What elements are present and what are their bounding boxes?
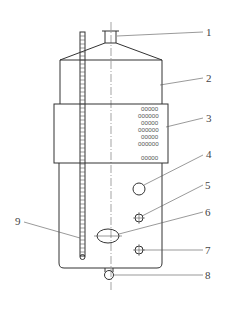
vessel-diagram: 00000 000000 00000 000000 00000 000000 0… — [0, 0, 227, 310]
sight-glass-6 — [94, 229, 122, 243]
svg-text:00000: 00000 — [141, 154, 159, 161]
callout-2: 2 — [206, 72, 212, 84]
perforations: 00000 000000 00000 000000 00000 000000 0… — [138, 105, 159, 161]
callout-1: 1 — [206, 26, 212, 38]
svg-text:000000: 000000 — [138, 112, 159, 119]
callout-8: 8 — [205, 269, 211, 281]
bottom-outlet — [105, 268, 114, 280]
level-gauge — [80, 32, 85, 260]
svg-text:00000: 00000 — [141, 105, 159, 112]
port-4 — [133, 183, 145, 195]
callout-6: 6 — [205, 206, 211, 218]
svg-text:00000: 00000 — [141, 133, 159, 140]
callout-3: 3 — [206, 112, 212, 124]
svg-text:00000: 00000 — [141, 119, 159, 126]
svg-text:000000: 000000 — [138, 140, 159, 147]
callout-9: 9 — [15, 215, 21, 227]
lower-shell — [59, 163, 162, 268]
svg-text:000000: 000000 — [138, 126, 159, 133]
callout-4: 4 — [206, 148, 212, 160]
callout-7: 7 — [205, 244, 211, 256]
callout-5: 5 — [205, 179, 211, 191]
leader-lines — [24, 32, 203, 275]
top-nozzle — [102, 31, 119, 43]
port-5 — [133, 212, 145, 224]
